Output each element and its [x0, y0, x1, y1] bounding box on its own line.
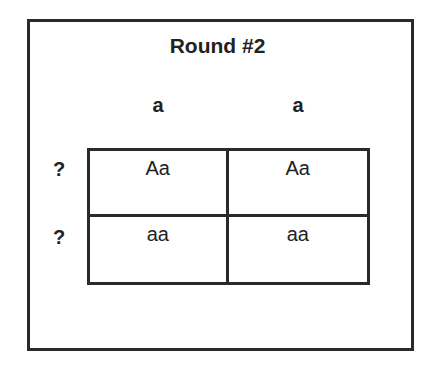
cell-1-2: Aa	[229, 151, 368, 217]
column-allele-2: a	[278, 94, 318, 117]
row-allele-1: ?	[53, 158, 65, 181]
cell-1-1: Aa	[90, 151, 229, 217]
column-allele-1: a	[138, 94, 178, 117]
punnett-grid: Aa Aa aa aa	[87, 148, 370, 285]
cell-2-2: aa	[229, 217, 368, 283]
cell-2-1: aa	[90, 217, 229, 283]
row-allele-2: ?	[53, 226, 65, 249]
round-title: Round #2	[0, 34, 435, 58]
